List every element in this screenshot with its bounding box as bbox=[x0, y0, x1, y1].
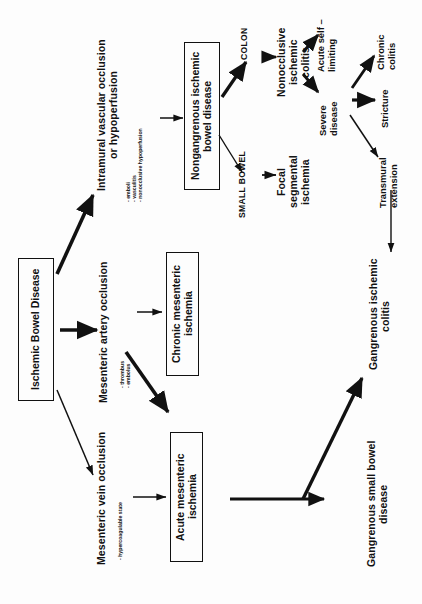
cause-vein-label: Mesenteric vein occlusion bbox=[96, 420, 108, 576]
outcome-focal-segmental-ischemia: Focal segmental ischemia bbox=[276, 152, 311, 212]
outcome-nonocclusive-ischemic-colitis: Nonocclusive ischemic colitis bbox=[276, 24, 311, 100]
cause-intramural-sublist: - emboli - vasculitis - nonocclusive hyp… bbox=[126, 52, 143, 202]
terminal-gangrenous-ischemic-colitis: Gangrenous ischemic colitis bbox=[368, 262, 392, 370]
arrow-severe-to-chronic-colitis bbox=[352, 56, 374, 88]
node-acute-mesenteric-ischemia-label: Acute mesenteric ischemia bbox=[170, 432, 203, 562]
arrow-root-to-vein bbox=[57, 390, 93, 475]
outcome-chronic-colitis: Chronic colitis bbox=[376, 20, 397, 70]
cause-vein-sublist: - hypercoagulable state bbox=[118, 470, 124, 560]
node-ischemic-bowel-disease-label: Ischemic Bowel Disease bbox=[18, 258, 54, 401]
arrow-nongangrenous-to-colon bbox=[222, 62, 246, 97]
node-chronic-mesenteric-ischemia-label: Chronic mesenteric ischemia bbox=[166, 252, 199, 376]
arrow-root-to-intramural bbox=[57, 195, 93, 274]
arrow-severe-to-transmural bbox=[350, 115, 378, 157]
arrow-artery-to-acute bbox=[126, 352, 168, 412]
course-acute-self-limiting: Acute self – limiting bbox=[316, 10, 337, 72]
segment-small-bowel-label: SMALL BOWEL bbox=[238, 140, 248, 218]
flowchart-canvas: Ischemic Bowel Disease Intramural vascul… bbox=[0, 0, 422, 604]
terminal-gangrenous-small-bowel-disease: Gangrenous small bowel disease bbox=[366, 440, 390, 568]
arrow-junction-to-gangrenous-colitis bbox=[303, 378, 362, 499]
outcome-transmural-extension: Transmural extension bbox=[378, 140, 399, 208]
segment-colon-label: COLON bbox=[240, 12, 250, 60]
cause-artery-sublist: - thrombus - embolus bbox=[120, 318, 132, 388]
cause-artery-label: Mesenteric artery occlusion bbox=[98, 252, 110, 412]
node-nongangrenous-bowel-disease-label: Nongangrenous ischemic bowel disease bbox=[184, 42, 220, 190]
outcome-stricture: Stricture bbox=[380, 80, 391, 128]
cause-intramural-label: Intramural vascular occlusion or hypoper… bbox=[96, 28, 120, 202]
course-severe-disease: Severe disease bbox=[318, 84, 339, 136]
